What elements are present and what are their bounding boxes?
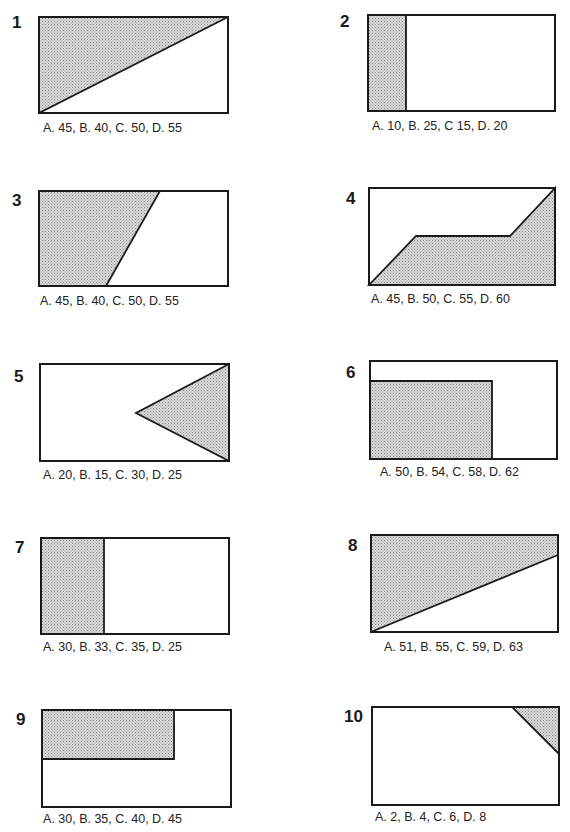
shaded-region (370, 381, 492, 459)
answer-options: A. 30, B. 33, C. 35, D. 25 (43, 640, 182, 654)
question-5: 5A. 20, B. 15, C. 30, D. 25 (14, 364, 229, 482)
question-number: 8 (348, 536, 357, 555)
question-1: 1A. 45, B. 40, C. 50, D. 55 (12, 13, 228, 135)
question-number: 3 (12, 191, 21, 210)
shaded-region (39, 191, 160, 286)
shaded-region (369, 188, 555, 285)
shaded-region (368, 15, 406, 111)
question-number: 1 (12, 13, 21, 32)
shaded-region (41, 538, 104, 634)
answer-options: A. 2, B. 4, C. 6, D. 8 (375, 810, 486, 824)
question-3: 3A. 45, B. 40, C. 50, D. 55 (12, 191, 228, 308)
question-4: 4A. 45, B. 50, C. 55, D. 60 (346, 188, 555, 306)
question-2: 2A. 10, B. 25, C 15, D. 20 (340, 12, 555, 133)
answer-options: A. 45, B. 40, C. 50, D. 55 (43, 121, 182, 135)
question-8: 8A. 51, B. 55, C. 59, D. 63 (348, 535, 558, 654)
answer-options: A. 20, B. 15, C. 30, D. 25 (43, 468, 182, 482)
worksheet: 1A. 45, B. 40, C. 50, D. 552A. 10, B. 25… (0, 0, 570, 832)
question-7: 7A. 30, B. 33, C. 35, D. 25 (15, 538, 229, 654)
answer-options: A. 51, B. 55, C. 59, D. 63 (384, 640, 523, 654)
answer-options: A. 45, B. 40, C. 50, D. 55 (40, 294, 179, 308)
question-number: 7 (15, 538, 24, 557)
answer-options: A. 50, B. 54, C. 58, D. 62 (380, 465, 519, 479)
shaded-region (512, 707, 559, 754)
answer-options: A. 30, B. 35, C. 40, D. 45 (43, 812, 182, 826)
question-number: 6 (346, 363, 355, 382)
question-number: 9 (16, 710, 25, 729)
shaded-region (136, 364, 229, 461)
answer-options: A. 45, B. 50, C. 55, D. 60 (371, 292, 510, 306)
shaded-region (42, 710, 174, 759)
question-number: 4 (346, 189, 356, 208)
shaded-region (371, 535, 558, 632)
question-9: 9A. 30, B. 35, C. 40, D. 45 (16, 710, 231, 826)
answer-options: A. 10, B. 25, C 15, D. 20 (372, 119, 508, 133)
shaded-region (39, 17, 228, 113)
question-number: 2 (340, 12, 349, 31)
question-10: 10A. 2, B. 4, C. 6, D. 8 (344, 707, 559, 824)
question-number: 5 (14, 367, 23, 386)
question-number: 10 (344, 707, 363, 726)
question-6: 6A. 50, B. 54, C. 58, D. 62 (346, 361, 557, 479)
